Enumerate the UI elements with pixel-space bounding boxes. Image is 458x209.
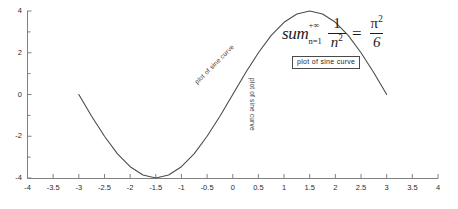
x-axis-tick-label: 2.5	[356, 184, 366, 192]
x-axis-tick-label: 1.5	[305, 184, 315, 192]
x-axis-tick-label: 0.5	[253, 184, 263, 192]
x-axis-tick-label: -2.5	[98, 184, 111, 192]
x-axis-tick-label: -2	[127, 184, 134, 192]
x-axis-ticks	[28, 174, 439, 179]
equation-result-denominator: 6	[370, 33, 384, 51]
y-axis-tick-label: 2	[4, 49, 22, 57]
x-axis-tick-label: 1	[282, 184, 286, 192]
x-axis-tick-label: 3	[385, 184, 389, 192]
x-axis-tick-label: 0	[231, 184, 235, 192]
equation-result-numerator-exponent: 2	[378, 14, 383, 24]
y-axis-tick-label: 4	[4, 7, 22, 15]
equation-term-fraction: 1 n2	[328, 16, 346, 51]
plot-canvas	[0, 0, 458, 209]
equation-term-denominator-exponent: 2	[338, 33, 343, 43]
boxed-curve-label: plot of sine curve	[292, 56, 360, 69]
equation-term-denominator: n2	[328, 33, 346, 51]
equation-term-numerator: 1	[330, 16, 344, 33]
vertical-curve-label: plot of sine curve	[249, 78, 256, 131]
y-axis-tick-label: -4	[4, 174, 22, 182]
equation-result-numerator: π2	[368, 16, 386, 33]
y-axis-tick-label: -2	[4, 133, 22, 141]
equation-equals-sign: =	[352, 25, 362, 42]
sum-equation: sum +∞ n=1 1 n2 = π2 6	[282, 16, 389, 51]
equation-result-numerator-base: π	[371, 15, 379, 31]
x-axis-tick-label: -1	[178, 184, 185, 192]
equation-limits: +∞ n=1	[309, 21, 322, 46]
x-axis-tick-label: 4	[436, 184, 440, 192]
x-axis-tick-label: -3	[75, 184, 82, 192]
x-axis-tick-label: -3.5	[47, 184, 60, 192]
x-axis-tick-label: 2	[333, 184, 337, 192]
x-axis-tick-label: 3.5	[407, 184, 417, 192]
sine-curve-figure: -4-3.5-3-2.5-2-1.5-1-0.500.511.522.533.5…	[0, 0, 458, 209]
y-axis-tick-label: 0	[4, 91, 22, 99]
x-axis-tick-label: -0.5	[201, 184, 214, 192]
equation-sum-word: sum	[282, 25, 309, 42]
equation-lower-limit: n=1	[309, 37, 322, 46]
x-axis-tick-label: -1.5	[149, 184, 162, 192]
equation-result-fraction: π2 6	[368, 16, 386, 51]
x-axis-tick-label: -4	[24, 184, 31, 192]
equation-upper-limit: +∞	[309, 21, 322, 30]
